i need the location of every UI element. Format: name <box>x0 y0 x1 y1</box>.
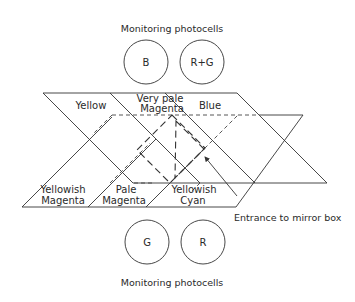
region-yellow-label: Yellow <box>75 100 107 111</box>
photocell-g: G <box>125 220 169 264</box>
region-blue-label: Blue <box>199 100 221 111</box>
dashed-overlap-outline <box>92 115 260 193</box>
region-very-pale-magenta-line2: Magenta <box>140 103 184 114</box>
photocell-rg-label: R+G <box>190 57 213 68</box>
region-pale-magenta-line1: Pale <box>116 184 137 195</box>
photocell-b-label: B <box>143 57 150 68</box>
region-yellowish-magenta-line2: Magenta <box>41 195 85 206</box>
photocell-rg: R+G <box>180 40 224 84</box>
mirror-box-diagram: Monitoring photocells B R+G <box>0 0 355 302</box>
region-pale-magenta-line2: Magenta <box>102 195 146 206</box>
region-yellowish-cyan-line1: Yellowish <box>170 184 216 195</box>
region-yellowish-magenta-line1: Yellowish <box>39 184 85 195</box>
bottom-photocells-title: Monitoring photocells <box>121 277 224 288</box>
region-yellowish-cyan-line2: Cyan <box>180 195 205 206</box>
mirror-box-outline <box>137 115 205 183</box>
photocell-g-label: G <box>143 237 151 248</box>
entrance-annotation: Entrance to mirror box <box>234 212 342 223</box>
photocell-b: B <box>124 40 168 84</box>
photocell-r: R <box>181 220 225 264</box>
photocell-r-label: R <box>200 237 207 248</box>
top-photocells-title: Monitoring photocells <box>121 23 224 34</box>
